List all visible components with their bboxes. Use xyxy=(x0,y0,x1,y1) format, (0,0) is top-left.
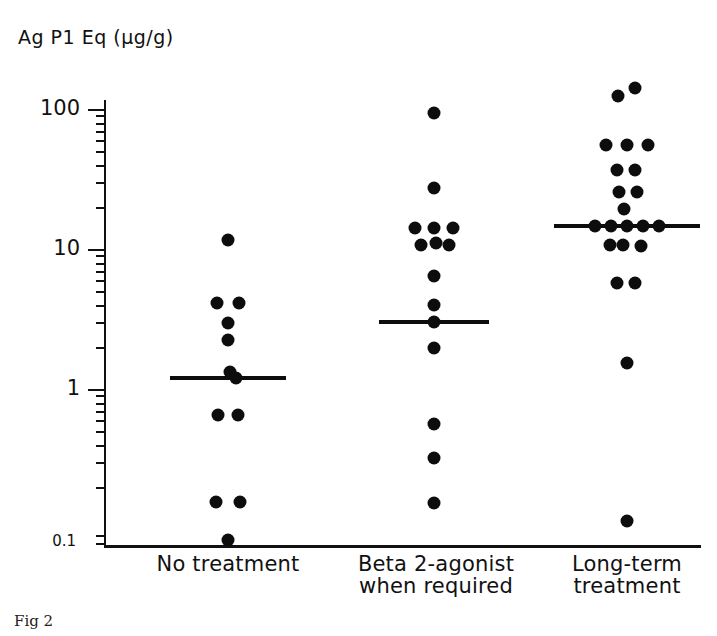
data-point xyxy=(232,409,245,422)
y-tick-minor xyxy=(96,445,105,447)
data-point xyxy=(613,186,626,199)
x-label-line: Long-term xyxy=(572,552,682,576)
y-tick-minor xyxy=(96,115,105,117)
y-tick-minor xyxy=(96,131,105,133)
data-point xyxy=(600,139,613,152)
data-point xyxy=(428,270,441,283)
data-point xyxy=(415,239,428,252)
data-point xyxy=(211,297,224,310)
y-tick-minor xyxy=(96,403,105,405)
data-point xyxy=(618,203,631,216)
y-tick-minor xyxy=(96,420,105,422)
y-tick-minor xyxy=(96,411,105,413)
data-point xyxy=(635,240,648,253)
y-tick-minor xyxy=(96,535,105,537)
scatter-plot-figure: Ag P1 Eq (µg/g) 1001010.1 No treatment B… xyxy=(0,0,717,636)
y-tick-minor xyxy=(96,291,105,293)
y-tick-minor xyxy=(96,280,105,282)
median-long-term xyxy=(554,224,700,228)
data-point xyxy=(621,357,634,370)
data-point xyxy=(210,496,223,509)
x-label-line: treatment xyxy=(573,574,680,598)
data-point xyxy=(629,277,642,290)
y-tick-minor xyxy=(96,140,105,142)
data-point xyxy=(222,234,235,247)
data-point xyxy=(631,186,644,199)
data-point xyxy=(621,515,634,528)
data-point xyxy=(233,297,246,310)
data-point xyxy=(428,222,441,235)
data-point xyxy=(222,334,235,347)
y-tick-minor xyxy=(96,543,105,545)
data-point xyxy=(629,82,642,95)
data-point xyxy=(428,418,441,431)
y-tick-minor xyxy=(96,462,105,464)
figure-caption: Fig 2 xyxy=(14,612,53,630)
y-tick-label: 10 xyxy=(10,236,80,260)
y-tick-minor xyxy=(96,123,105,125)
data-point xyxy=(611,164,624,177)
x-axis-label-group-3: Long-termtreatment xyxy=(537,553,717,597)
y-tick-label: 100 xyxy=(10,96,80,120)
x-axis-label-group-1: No treatment xyxy=(128,553,328,575)
data-point xyxy=(428,452,441,465)
data-point xyxy=(447,222,460,235)
data-point xyxy=(617,239,630,252)
y-axis-label: Ag P1 Eq (µg/g) xyxy=(18,26,174,48)
y-tick-minor xyxy=(96,487,105,489)
y-tick-minor xyxy=(96,182,105,184)
y-tick-minor xyxy=(96,431,105,433)
data-point xyxy=(642,139,655,152)
x-label-line: when required xyxy=(359,574,513,598)
y-tick-minor xyxy=(96,207,105,209)
data-point xyxy=(611,277,624,290)
data-point xyxy=(222,534,235,547)
data-point xyxy=(409,222,422,235)
y-tick-major xyxy=(88,109,105,111)
y-tick-minor xyxy=(96,165,105,167)
data-point xyxy=(428,182,441,195)
y-tick-minor xyxy=(96,151,105,153)
data-point xyxy=(222,317,235,330)
data-point xyxy=(428,342,441,355)
data-point xyxy=(629,164,642,177)
data-point xyxy=(604,239,617,252)
median-no-treatment xyxy=(170,376,286,380)
y-tick-major xyxy=(88,249,105,251)
y-tick-minor xyxy=(96,347,105,349)
y-tick-label: 0.1 xyxy=(6,532,76,550)
data-point xyxy=(428,497,441,510)
y-tick-minor xyxy=(96,305,105,307)
data-point xyxy=(234,496,247,509)
data-point xyxy=(428,107,441,120)
data-point xyxy=(443,239,456,252)
y-tick-minor xyxy=(96,395,105,397)
x-label-line: Beta 2-agonist xyxy=(358,552,514,576)
y-tick-label: 1 xyxy=(10,376,80,400)
data-point xyxy=(621,139,634,152)
data-point xyxy=(612,90,625,103)
data-point xyxy=(212,409,225,422)
y-tick-minor xyxy=(96,255,105,257)
y-tick-minor xyxy=(96,271,105,273)
data-point xyxy=(428,299,441,312)
y-tick-major xyxy=(88,389,105,391)
x-axis-label-group-2: Beta 2-agonistwhen required xyxy=(336,553,536,597)
y-tick-minor xyxy=(96,322,105,324)
data-point xyxy=(430,237,443,250)
x-label-line: No treatment xyxy=(157,552,300,576)
median-beta2-agonist xyxy=(379,320,489,324)
y-tick-minor xyxy=(96,263,105,265)
x-axis-line xyxy=(104,545,701,548)
